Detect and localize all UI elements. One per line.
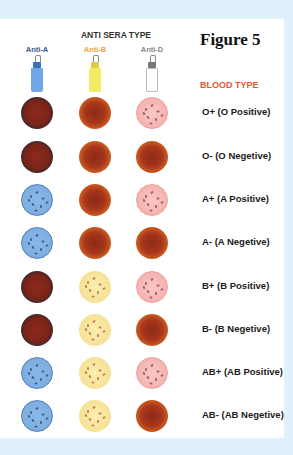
blood-type-label: A- (A Negetive)	[202, 236, 270, 247]
non-agglutinated-sample-icon	[79, 271, 111, 303]
blood-type-row: A- (A Negetive)	[0, 227, 284, 261]
blood-type-label: A+ (A Positive)	[202, 193, 269, 204]
blood-type-label: B- (B Negetive)	[202, 323, 270, 334]
agglutinated-sample-icon	[79, 97, 111, 129]
blood-type-label: B+ (B Positive)	[202, 280, 269, 291]
blood-type-row: O+ (O Positive)	[0, 97, 284, 131]
anti-a-bottle-icon	[31, 55, 43, 93]
figure-title: Figure 5	[200, 30, 261, 50]
blood-type-row: AB+ (AB Positive)	[0, 357, 284, 391]
non-agglutinated-sample-icon	[21, 400, 53, 432]
non-agglutinated-sample-icon	[79, 400, 111, 432]
agglutinated-sample-icon	[79, 184, 111, 216]
sera-label-anti-a: Anti-A	[12, 45, 62, 54]
agglutinated-sample-icon	[21, 314, 53, 346]
agglutinated-sample-icon	[21, 271, 53, 303]
non-agglutinated-sample-icon	[79, 357, 111, 389]
agglutinated-sample-icon	[79, 141, 111, 173]
non-agglutinated-sample-icon	[21, 357, 53, 389]
non-agglutinated-sample-icon	[136, 184, 168, 216]
blood-type-row: B- (B Negetive)	[0, 314, 284, 348]
non-agglutinated-sample-icon	[136, 97, 168, 129]
blood-type-row: A+ (A Positive)	[0, 184, 284, 218]
anti-b-bottle-icon	[89, 55, 101, 93]
blood-type-row: B+ (B Positive)	[0, 271, 284, 305]
anti-d-bottle-icon	[146, 55, 158, 93]
non-agglutinated-sample-icon	[21, 227, 53, 259]
blood-type-header: BLOOD TYPE	[200, 80, 259, 90]
agglutinated-sample-icon	[21, 141, 53, 173]
blood-type-label: O+ (O Positive)	[202, 106, 270, 117]
anti-sera-header: ANTI SERA TYPE	[66, 30, 166, 40]
sera-label-anti-d: Anti-D	[127, 45, 177, 54]
blood-type-label: O- (O Negetive)	[202, 150, 271, 161]
blood-type-label: AB- (AB Negetive)	[202, 409, 284, 420]
agglutinated-sample-icon	[79, 227, 111, 259]
agglutinated-sample-icon	[136, 400, 168, 432]
blood-type-row: O- (O Negetive)	[0, 141, 284, 175]
agglutinated-sample-icon	[21, 97, 53, 129]
blood-type-row: AB- (AB Negetive)	[0, 400, 284, 434]
non-agglutinated-sample-icon	[136, 271, 168, 303]
agglutinated-sample-icon	[136, 314, 168, 346]
non-agglutinated-sample-icon	[21, 184, 53, 216]
blood-type-label: AB+ (AB Positive)	[202, 366, 283, 377]
sera-label-anti-b: Anti-B	[70, 45, 120, 54]
agglutinated-sample-icon	[136, 227, 168, 259]
non-agglutinated-sample-icon	[136, 357, 168, 389]
non-agglutinated-sample-icon	[79, 314, 111, 346]
agglutinated-sample-icon	[136, 141, 168, 173]
